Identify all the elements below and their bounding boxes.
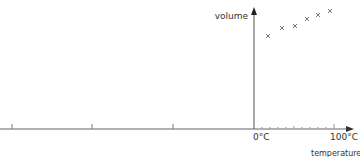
y-axis-label: volume [215, 11, 249, 21]
chart: volume 0°C 100°C temperature [0, 0, 360, 157]
marker-x-icon [266, 34, 270, 38]
x-major-ticks [12, 124, 173, 129]
marker-x-icon [305, 17, 309, 21]
x-minor-ticks [262, 124, 334, 129]
marker-x-icon [328, 9, 332, 13]
marker-x-icon [280, 26, 284, 30]
marker-x-icon [316, 13, 320, 17]
data-markers [266, 9, 332, 38]
marker-x-icon [293, 24, 297, 28]
x-axis-label: temperature [311, 149, 360, 157]
x-tick-label-0: 0°C [253, 132, 270, 142]
x-tick-label-100: 100°C [330, 132, 358, 142]
y-axis-arrow-icon [251, 7, 257, 15]
